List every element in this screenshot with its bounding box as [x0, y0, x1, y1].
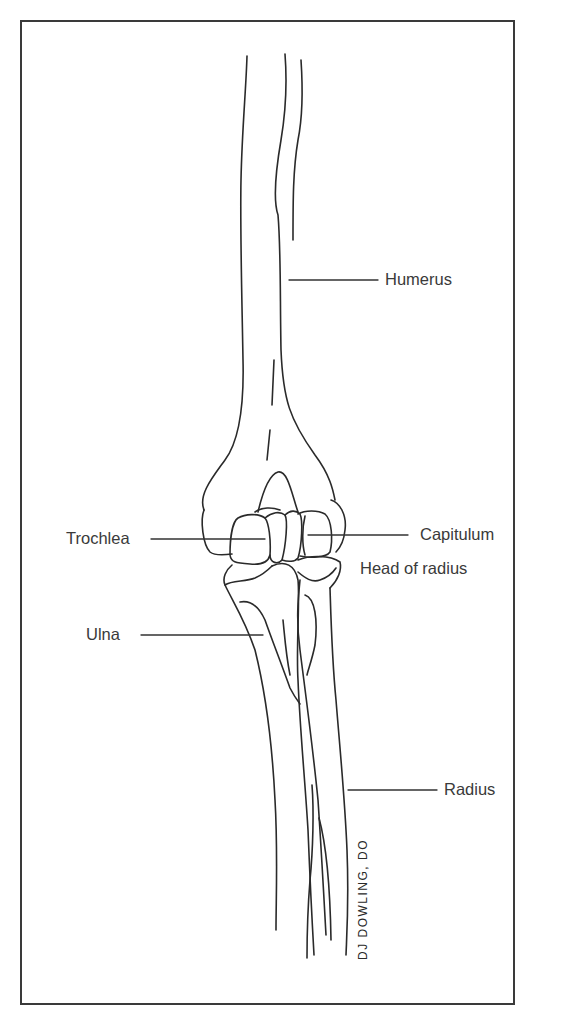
label-capitulum: Capitulum	[420, 526, 494, 543]
humerus-drawing	[202, 54, 345, 555]
ulna-drawing	[224, 564, 314, 955]
elbow-illustration	[0, 0, 566, 1012]
label-ulna: Ulna	[86, 626, 120, 643]
label-radius: Radius	[444, 781, 495, 798]
leader-lines	[141, 280, 437, 790]
label-humerus: Humerus	[385, 271, 452, 288]
label-head-of-radius: Head of radius	[360, 560, 467, 577]
label-trochlea: Trochlea	[66, 530, 130, 547]
artist-signature: DJ DOWLING, DO	[356, 839, 370, 960]
radius-drawing	[298, 556, 348, 958]
